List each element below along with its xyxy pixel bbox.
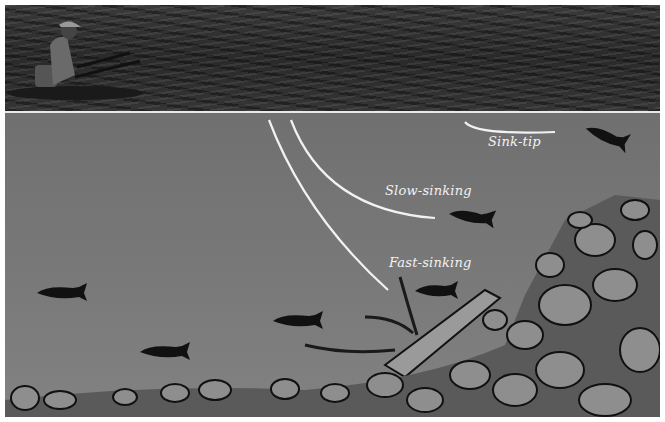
fast-sinking-line <box>269 120 388 290</box>
sink-tip-label: Sink-tip <box>488 134 541 149</box>
diagram-illustration <box>5 5 660 417</box>
fast-sinking-label: Fast-sinking <box>389 255 472 270</box>
sink-tip-line <box>465 122 555 133</box>
slow-sinking-label: Slow-sinking <box>385 183 472 198</box>
diagram-frame: Sink-tip Slow-sinking Fast-sinking <box>5 5 660 417</box>
